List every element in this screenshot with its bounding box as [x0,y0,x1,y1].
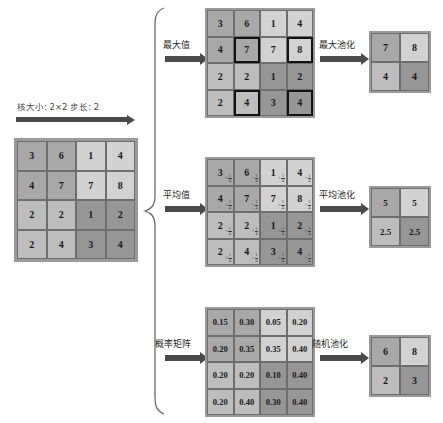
cell-value: 0.15 [213,317,228,327]
cell-value: 1 [271,18,276,29]
matrix-cell: 2 [287,63,314,90]
cell-value: 2 [218,71,223,82]
cell-value: 4 [297,18,302,29]
cell-value: 0.20 [213,397,228,407]
cell-factor: ×14 [305,174,311,184]
matrix-cell: 2.5 [371,217,400,246]
cell-factor: ×14 [278,200,284,210]
stochastic-pooling-label: 随机池化 [312,337,348,350]
cell-factor: ×14 [225,227,231,237]
cell-value: 0.10 [266,370,281,380]
matrix-cell: 2×14 [234,212,261,239]
cell-value: 0.30 [239,317,254,327]
cell-value: 4 [59,239,64,250]
matrix-cell: 6 [371,337,400,366]
cell-value: 7 [271,193,276,204]
probability-matrix-label: 概率矩阵 [155,337,191,350]
matrix-cell: 2.5 [400,217,429,246]
matrix-cell: 4 [106,230,136,260]
cell-value: 7 [383,42,388,53]
cell-value: 7 [88,180,93,191]
cell-factor: ×14 [278,227,284,237]
matrix-cell: 4 [287,90,314,117]
matrix-cell: 0.30 [234,309,261,336]
cell-value: 6 [59,150,64,161]
matrix-cell: 4 [400,62,429,91]
cell-value: 1 [271,220,276,231]
cell-value: 0.40 [292,397,307,407]
cell-value: 7 [59,180,64,191]
cell-value: 3 [271,97,276,108]
cell-value: 4 [118,150,123,161]
matrix-cell: 0.20 [234,362,261,389]
matrix-cell: 3×14 [207,159,234,186]
matrix-cell: 8×14 [287,186,314,213]
matrix-cell: 0.35 [234,336,261,363]
matrix-cell: 4×14 [287,159,314,186]
cell-value: 3 [412,375,417,386]
cell-value: 0.35 [239,344,254,354]
cell-value: 4 [218,44,223,55]
cell-value: 1 [88,150,93,161]
matrix-cell: 3 [17,141,47,171]
matrix-cell: 0.15 [207,309,234,336]
matrix-cell: 3 [76,230,106,260]
matrix-cell: 5 [371,188,400,217]
matrix-cell: 0.10 [260,362,287,389]
matrix-cell: 1×14 [260,212,287,239]
cell-value: 2.5 [409,227,420,237]
matrix-cell: 2 [207,90,234,117]
stochastic-pooling-result: 6823 [369,335,431,397]
diagram-canvas: 核大小: 2×2 步长: 2 3614477822122434 最大值 3614… [0,0,443,423]
cell-factor: ×14 [225,200,231,210]
matrix-cell: 0.40 [287,362,314,389]
matrix-cell: 0.20 [287,309,314,336]
cell-value: 2 [218,246,223,257]
cell-value: 8 [412,42,417,53]
cell-value: 3 [29,150,34,161]
matrix-cell: 4 [287,10,314,37]
matrix-cell: 2 [234,63,261,90]
matrix-cell: 4 [17,171,47,201]
cell-factor: ×14 [252,174,258,184]
cell-value: 4 [383,71,388,82]
matrix-cell: 2×14 [207,239,234,266]
cell-value: 5 [383,198,388,208]
cell-value: 2 [297,71,302,82]
cell-value: 0.20 [292,317,307,327]
cell-value: 2 [118,209,123,220]
max-output-arrow [320,56,362,62]
matrix-cell: 7×14 [260,186,287,213]
max-pooling-result: 7844 [369,31,431,93]
matrix-cell: 8 [106,171,136,201]
cell-value: 0.40 [292,370,307,380]
cell-value: 6 [244,18,249,29]
matrix-cell: 3 [400,366,429,395]
cell-value: 2 [244,71,249,82]
matrix-cell: 2 [47,200,77,230]
matrix-cell: 1 [76,200,106,230]
cell-value: 3 [271,246,276,257]
matrix-cell: 0.30 [260,389,287,416]
matrix-cell: 7 [371,33,400,62]
matrix-cell: 6 [234,10,261,37]
input-feature-map: 3614477822122434 [14,138,138,262]
average-output-arrow [320,206,362,212]
cell-value: 0.20 [213,344,228,354]
matrix-cell: 0.40 [287,389,314,416]
cell-value: 8 [118,180,123,191]
matrix-cell: 8 [400,33,429,62]
matrix-cell: 0.40 [287,336,314,363]
cell-value: 0.40 [239,397,254,407]
probability-source-matrix: 0.150.300.050.200.200.350.350.400.200.20… [205,307,315,417]
cell-value: 2 [383,375,388,386]
cell-factor: ×14 [305,227,311,237]
matrix-cell: 0.20 [207,389,234,416]
matrix-cell: 0.20 [207,336,234,363]
matrix-cell: 4 [371,62,400,91]
cell-value: 0.40 [292,344,307,354]
matrix-cell: 6 [47,141,77,171]
cell-value: 3 [88,239,93,250]
matrix-cell: 7 [234,37,261,64]
cell-factor: ×14 [225,253,231,263]
